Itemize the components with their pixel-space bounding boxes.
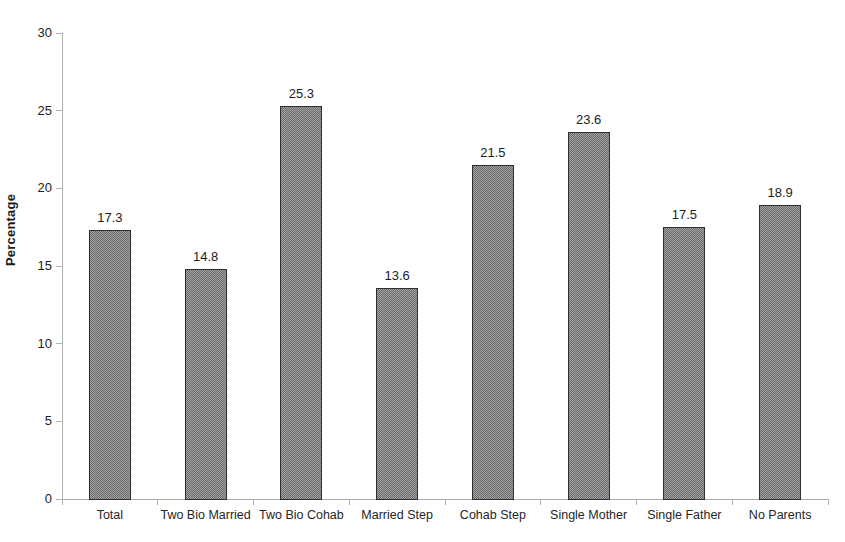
bar-value-label: 17.5: [637, 208, 733, 222]
bar: [663, 227, 705, 500]
x-tick-mark: [157, 500, 158, 505]
bar-chart: Percentage 05101520253017.3Total14.8Two …: [0, 0, 845, 542]
y-tick-label: 20: [0, 181, 52, 195]
x-tick-mark: [636, 500, 637, 505]
bar: [568, 132, 610, 500]
bar: [185, 269, 227, 500]
y-tick-label: 10: [0, 337, 52, 351]
x-tick-mark: [349, 500, 350, 505]
bar: [759, 205, 801, 500]
y-tick-label: 30: [0, 26, 52, 40]
x-category-label: No Parents: [732, 508, 828, 522]
bar-value-label: 13.6: [349, 269, 445, 283]
y-tick-mark: [56, 421, 62, 422]
y-tick-mark: [56, 110, 62, 111]
y-tick-mark: [56, 266, 62, 267]
bar-value-label: 21.5: [445, 146, 541, 160]
y-tick-mark: [56, 33, 62, 34]
y-tick-label: 15: [0, 259, 52, 273]
bar: [280, 106, 322, 500]
bar-value-label: 23.6: [541, 113, 637, 127]
bar-value-label: 17.3: [62, 211, 158, 225]
bar-value-label: 25.3: [254, 87, 350, 101]
x-tick-mark: [253, 500, 254, 505]
x-tick-mark: [62, 500, 63, 505]
y-tick-label: 5: [0, 414, 52, 428]
plot-axes: [62, 33, 829, 500]
y-tick-label: 0: [0, 492, 52, 506]
x-category-label: Two Bio Cohab: [254, 508, 350, 522]
x-category-label: Two Bio Married: [158, 508, 254, 522]
bar-value-label: 18.9: [732, 186, 828, 200]
bar: [89, 230, 131, 500]
y-tick-label: 25: [0, 104, 52, 118]
y-tick-mark: [56, 343, 62, 344]
bar: [376, 288, 418, 500]
x-category-label: Cohab Step: [445, 508, 541, 522]
bar: [472, 165, 514, 500]
x-tick-mark: [732, 500, 733, 505]
x-category-label: Total: [62, 508, 158, 522]
x-tick-mark: [445, 500, 446, 505]
x-category-label: Married Step: [349, 508, 445, 522]
x-category-label: Single Mother: [541, 508, 637, 522]
x-tick-mark: [540, 500, 541, 505]
x-tick-mark: [828, 500, 829, 505]
x-category-label: Single Father: [637, 508, 733, 522]
y-tick-mark: [56, 188, 62, 189]
bar-value-label: 14.8: [158, 250, 254, 264]
